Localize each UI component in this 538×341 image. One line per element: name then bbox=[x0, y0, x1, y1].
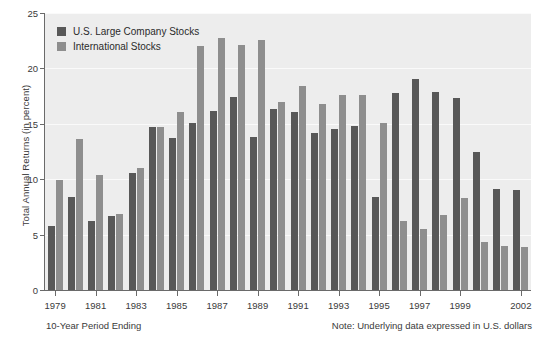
bar-international bbox=[339, 95, 346, 290]
x-tick-label: 1985 bbox=[166, 300, 187, 311]
x-tick-mark bbox=[96, 291, 97, 296]
x-tick-mark bbox=[460, 291, 461, 296]
y-tick-label: 0 bbox=[12, 285, 38, 296]
x-tick-label: 1995 bbox=[369, 300, 390, 311]
bar-international bbox=[76, 139, 83, 290]
bar-group-container bbox=[45, 13, 531, 290]
y-tick-label: 25 bbox=[12, 8, 38, 19]
bar-us-large-company bbox=[189, 123, 196, 290]
x-tick-mark bbox=[177, 291, 178, 296]
bar-international bbox=[238, 45, 245, 290]
bar-international bbox=[258, 40, 265, 290]
bar-international bbox=[319, 104, 326, 290]
bar-us-large-company bbox=[392, 93, 399, 290]
legend-item-international: International Stocks bbox=[57, 39, 199, 54]
bar-international bbox=[197, 46, 204, 290]
x-axis-line bbox=[44, 290, 531, 291]
bar-international bbox=[177, 112, 184, 290]
x-tick-label: 1991 bbox=[288, 300, 309, 311]
x-axis-title: 10-Year Period Ending bbox=[46, 320, 141, 331]
bar-us-large-company bbox=[230, 97, 237, 290]
x-tick-mark bbox=[217, 291, 218, 296]
bar-international bbox=[400, 221, 407, 290]
bar-international bbox=[116, 214, 123, 290]
bar-international bbox=[481, 242, 488, 290]
x-tick-mark bbox=[298, 291, 299, 296]
y-tick-label: 5 bbox=[12, 229, 38, 240]
bar-us-large-company bbox=[108, 216, 115, 290]
bar-us-large-company bbox=[473, 152, 480, 291]
bar-international bbox=[96, 175, 103, 290]
x-tick-label: 1987 bbox=[207, 300, 228, 311]
bar-international bbox=[137, 168, 144, 290]
bar-international bbox=[380, 123, 387, 290]
bar-international bbox=[359, 95, 366, 290]
bar-us-large-company bbox=[513, 190, 520, 290]
x-tick-mark bbox=[258, 291, 259, 296]
x-tick-label: 1981 bbox=[85, 300, 106, 311]
bar-us-large-company bbox=[412, 79, 419, 290]
bar-us-large-company bbox=[493, 189, 500, 290]
x-tick-label: 1989 bbox=[247, 300, 268, 311]
bar-international bbox=[521, 247, 528, 290]
bar-us-large-company bbox=[453, 98, 460, 290]
chart-legend: U.S. Large Company Stocks International … bbox=[57, 24, 199, 54]
y-tick-label: 20 bbox=[12, 63, 38, 74]
legend-swatch-icon bbox=[57, 42, 66, 51]
bar-international bbox=[218, 38, 225, 290]
bar-international bbox=[299, 86, 306, 290]
bar-international bbox=[56, 180, 63, 290]
legend-swatch-icon bbox=[57, 27, 66, 36]
bar-us-large-company bbox=[311, 133, 318, 290]
bar-international bbox=[157, 127, 164, 290]
bar-international bbox=[501, 246, 508, 290]
bar-us-large-company bbox=[129, 173, 136, 290]
x-tick-label: 1983 bbox=[126, 300, 147, 311]
x-tick-mark bbox=[55, 291, 56, 296]
legend-item-us: U.S. Large Company Stocks bbox=[57, 24, 199, 39]
bar-us-large-company bbox=[250, 137, 257, 290]
legend-label: U.S. Large Company Stocks bbox=[73, 26, 199, 37]
x-tick-label: 2002 bbox=[510, 300, 531, 311]
y-tick-label: 10 bbox=[12, 174, 38, 185]
y-tick-label: 15 bbox=[12, 118, 38, 129]
bar-international bbox=[278, 102, 285, 290]
bar-us-large-company bbox=[210, 111, 217, 290]
x-tick-label: 1979 bbox=[45, 300, 66, 311]
bar-us-large-company bbox=[291, 112, 298, 290]
bar-us-large-company bbox=[68, 197, 75, 290]
bar-international bbox=[461, 198, 468, 290]
bar-us-large-company bbox=[331, 129, 338, 290]
x-tick-mark bbox=[379, 291, 380, 296]
x-tick-mark bbox=[521, 291, 522, 296]
bar-us-large-company bbox=[88, 221, 95, 290]
bar-international bbox=[420, 229, 427, 290]
bar-international bbox=[440, 215, 447, 290]
legend-label: International Stocks bbox=[73, 41, 161, 52]
x-tick-label: 1993 bbox=[328, 300, 349, 311]
y-tick-mark bbox=[40, 290, 45, 291]
chart-figure: Total Annual Returns (in percent) 051015… bbox=[0, 0, 538, 341]
bar-us-large-company bbox=[351, 126, 358, 290]
x-tick-label: 1997 bbox=[409, 300, 430, 311]
chart-note: Note: Underlying data expressed in U.S. … bbox=[332, 320, 532, 331]
bar-us-large-company bbox=[372, 197, 379, 290]
bar-us-large-company bbox=[432, 92, 439, 290]
x-tick-mark bbox=[420, 291, 421, 296]
x-tick-label: 1999 bbox=[450, 300, 471, 311]
x-tick-mark bbox=[136, 291, 137, 296]
x-tick-mark bbox=[339, 291, 340, 296]
bar-us-large-company bbox=[149, 127, 156, 290]
bar-us-large-company bbox=[48, 226, 55, 290]
bar-us-large-company bbox=[270, 109, 277, 290]
bar-us-large-company bbox=[169, 138, 176, 290]
